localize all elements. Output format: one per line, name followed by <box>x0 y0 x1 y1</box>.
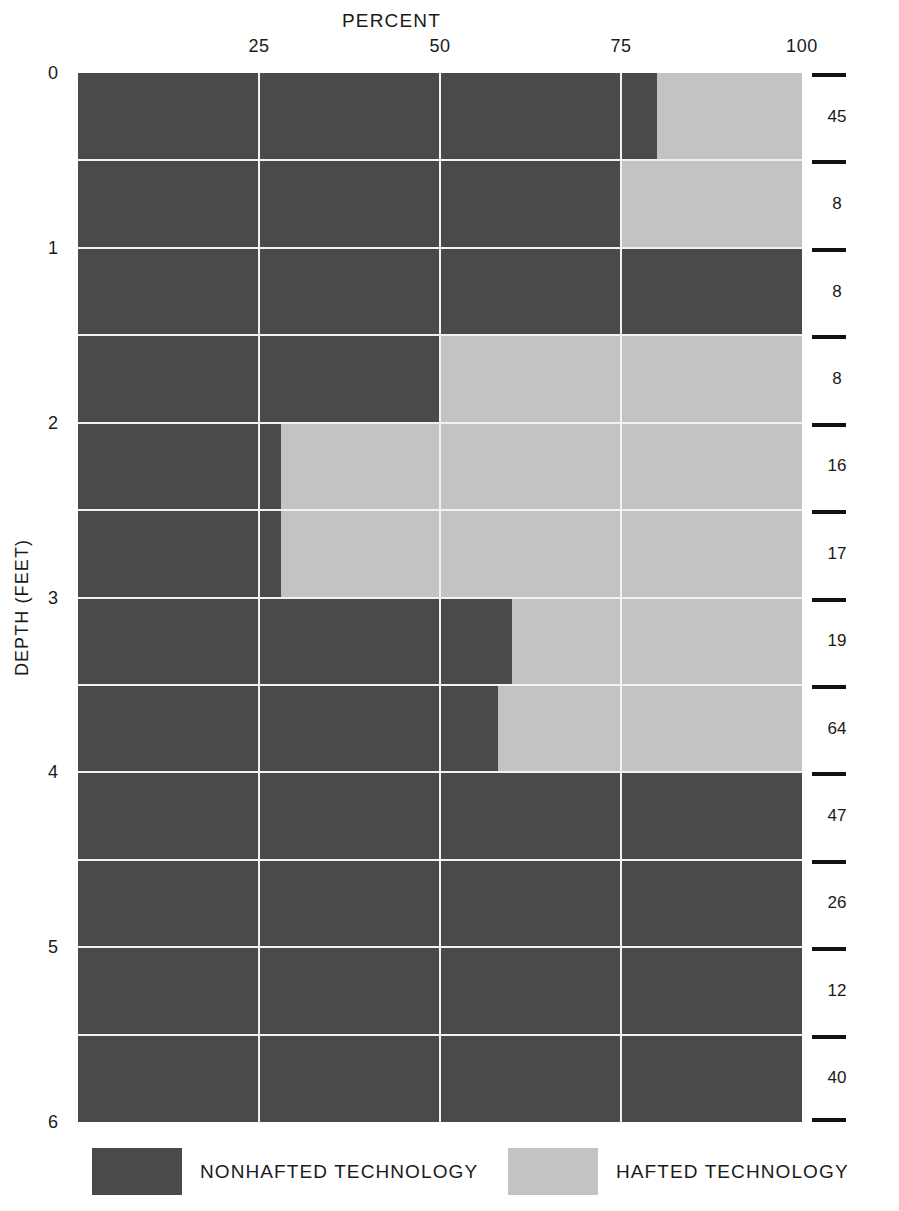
bar-segment-hafted <box>281 510 802 597</box>
bar-row <box>78 597 802 684</box>
bar-row <box>78 73 802 160</box>
level-count-value: 8 <box>810 160 864 247</box>
y-tick-label-3: 3 <box>48 587 58 608</box>
x-tick-label-25: 25 <box>248 36 269 57</box>
bar-segment-hafted <box>657 73 802 160</box>
x-tick-label-50: 50 <box>429 36 450 57</box>
legend-label-nonhafted: NONHAFTED TECHNOLOGY <box>200 1161 478 1183</box>
level-count-value: 40 <box>810 1035 864 1122</box>
bar-segment-hafted <box>440 335 802 422</box>
bar-segment-nonhafted <box>78 597 512 684</box>
level-count-value: 8 <box>810 248 864 335</box>
bar-row <box>78 685 802 772</box>
level-count-value: 17 <box>810 510 864 597</box>
y-tick-label-4: 4 <box>48 762 58 783</box>
level-count-value: 45 <box>810 73 864 160</box>
bar-row <box>78 772 802 859</box>
level-count-value: 26 <box>810 860 864 947</box>
level-count-value: 47 <box>810 772 864 859</box>
bar-stack-container <box>78 73 802 1122</box>
bar-segment-nonhafted <box>78 423 281 510</box>
legend-item-hafted: HAFTED TECHNOLOGY <box>508 1148 849 1195</box>
y-axis-title: DEPTH (FEET) <box>12 508 33 708</box>
plot-area <box>78 73 802 1122</box>
level-counts-column: 458881617196447261240 <box>810 73 864 1122</box>
y-tick-label-1: 1 <box>48 237 58 258</box>
bar-row <box>78 248 802 335</box>
legend-item-nonhafted: NONHAFTED TECHNOLOGY <box>92 1148 478 1195</box>
bar-segment-hafted <box>281 423 802 510</box>
y-tick-label-6: 6 <box>48 1112 58 1133</box>
y-tick-label-0: 0 <box>48 63 58 84</box>
bar-segment-hafted <box>621 160 802 247</box>
bar-segment-nonhafted <box>78 335 440 422</box>
y-axis-tick-labels: 0123456 <box>0 73 70 1122</box>
x-axis-tick-labels: 255075100 <box>78 36 802 62</box>
bar-segment-nonhafted <box>78 860 802 947</box>
bar-row <box>78 947 802 1034</box>
x-tick-label-75: 75 <box>610 36 631 57</box>
bar-row <box>78 860 802 947</box>
bar-segment-nonhafted <box>78 685 498 772</box>
bar-segment-nonhafted <box>78 1034 802 1121</box>
bar-segment-hafted <box>512 597 802 684</box>
legend-label-hafted: HAFTED TECHNOLOGY <box>616 1161 849 1183</box>
level-count-value: 16 <box>810 423 864 510</box>
bar-row <box>78 510 802 597</box>
bar-row <box>78 335 802 422</box>
bar-segment-nonhafted <box>78 248 802 335</box>
bar-segment-hafted <box>498 685 802 772</box>
legend-swatch-nonhafted-icon <box>92 1148 182 1195</box>
y-tick-label-5: 5 <box>48 937 58 958</box>
bar-segment-nonhafted <box>78 73 657 160</box>
level-count-value: 12 <box>810 947 864 1034</box>
bar-row <box>78 423 802 510</box>
level-count-value: 64 <box>810 685 864 772</box>
bar-segment-nonhafted <box>78 510 281 597</box>
bar-row <box>78 1034 802 1121</box>
y-tick-label-2: 2 <box>48 412 58 433</box>
chart-title: PERCENT <box>0 10 899 32</box>
bar-row <box>78 160 802 247</box>
level-count-value: 8 <box>810 335 864 422</box>
x-tick-label-100: 100 <box>786 36 818 57</box>
bar-segment-nonhafted <box>78 160 621 247</box>
level-count-value: 19 <box>810 598 864 685</box>
chart-legend: NONHAFTED TECHNOLOGY HAFTED TECHNOLOGY <box>78 1148 878 1198</box>
chart-title-text: PERCENT <box>342 10 441 32</box>
legend-swatch-hafted-icon <box>508 1148 598 1195</box>
bar-segment-nonhafted <box>78 772 802 859</box>
bar-segment-nonhafted <box>78 947 802 1034</box>
